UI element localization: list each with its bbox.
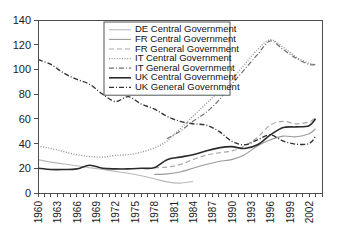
x-tick-label: 1984: [188, 201, 199, 224]
x-tick-label: 2002: [304, 201, 315, 224]
x-tick-label: 1978: [149, 201, 160, 224]
y-tick-label: 40: [19, 138, 31, 150]
x-tick-label: 1981: [169, 201, 180, 224]
x-tick-label: 1966: [72, 201, 83, 224]
y-tick-label: 100: [13, 63, 31, 75]
series-line-fr-central-government: [154, 129, 315, 175]
series-line-uk-central-government: [38, 119, 316, 170]
y-tick-label: 120: [13, 39, 31, 51]
x-tick-label: 1996: [265, 201, 276, 224]
x-tick-label: 1993: [246, 201, 257, 224]
y-tick-label: 0: [25, 187, 31, 199]
y-tick-label: 140: [13, 14, 31, 26]
x-tick-label: 1987: [207, 201, 218, 224]
chart-canvas: 020406080100120140 196019631966196919721…: [0, 0, 344, 242]
chart-legend: DE Central GovernmentFR Central Governme…: [104, 22, 240, 95]
legend-label: UK General Government: [135, 81, 240, 92]
x-tick-label: 1960: [33, 201, 44, 224]
y-axis-ticks: 020406080100120140: [13, 14, 38, 199]
series-line-de-central-government: [38, 160, 193, 183]
line-chart: 020406080100120140 196019631966196919721…: [0, 0, 344, 242]
y-tick-label: 80: [19, 88, 31, 100]
x-tick-label: 1990: [227, 201, 238, 224]
x-tick-label: 1963: [52, 201, 63, 224]
y-tick-label: 20: [19, 162, 31, 174]
x-tick-label: 1999: [285, 201, 296, 224]
x-tick-label: 1969: [91, 201, 102, 224]
x-tick-label: 1972: [110, 201, 121, 224]
x-axis-ticks: 1960196319661969197219751978198119841987…: [33, 193, 322, 223]
x-tick-label: 1975: [130, 201, 141, 224]
y-tick-label: 60: [19, 113, 31, 125]
